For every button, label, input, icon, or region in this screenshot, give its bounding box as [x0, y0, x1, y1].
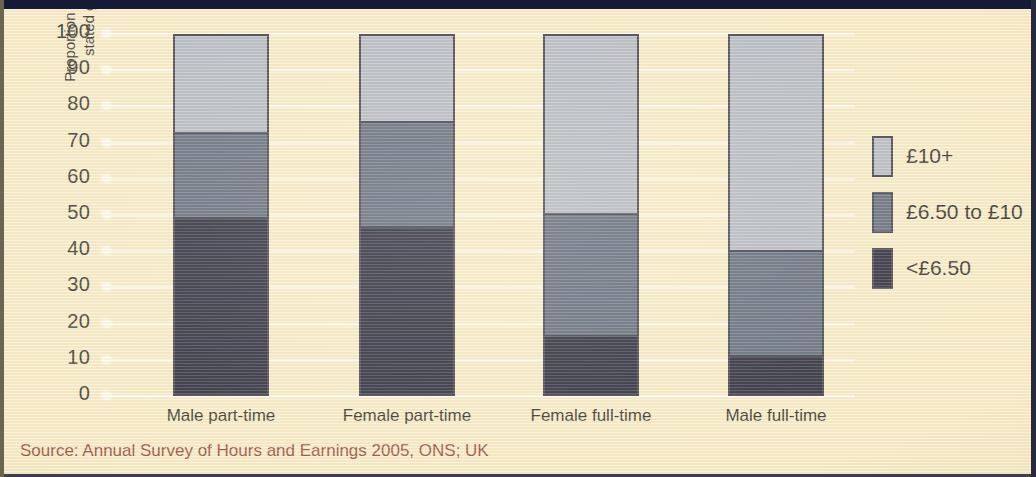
y-axis-tick-mark [102, 30, 111, 37]
bar-segment [545, 213, 637, 334]
bar-segment [175, 217, 267, 396]
y-axis-tick-mark [102, 247, 111, 254]
legend-label: <£6.50 [906, 256, 971, 280]
legend-swatch [872, 192, 893, 233]
bar-segment [730, 250, 822, 355]
x-axis-category-label: Male full-time [686, 406, 866, 426]
chart-figure: Proportion of employees in the stated gr… [0, 0, 1036, 477]
y-axis-tick-mark [102, 139, 111, 146]
legend-item: <£6.50 [872, 240, 1023, 296]
scan-edge-top [0, 0, 1036, 9]
bar-male-part-time [173, 34, 269, 396]
y-axis-tick-label: 0 [30, 382, 90, 405]
y-axis-tick-mark [102, 356, 111, 363]
bar-segment [730, 355, 822, 396]
y-axis-tick-mark [102, 102, 111, 109]
y-axis-tick-label: 10 [30, 346, 90, 369]
scan-edge-right [1031, 0, 1036, 477]
source-note: Source: Annual Survey of Hours and Earni… [20, 441, 489, 461]
legend-item: £6.50 to £10 [872, 184, 1023, 240]
legend-item: £10+ [872, 128, 1023, 184]
legend-label: £10+ [906, 144, 953, 168]
y-axis-tick-mark [102, 320, 111, 327]
bar-female-full-time [543, 34, 639, 396]
bar-segment [545, 335, 637, 396]
chart-legend: £10+£6.50 to £10<£6.50 [872, 128, 1023, 296]
bar-segment [175, 132, 267, 217]
x-axis-category-label: Female full-time [501, 406, 681, 426]
legend-swatch [872, 248, 893, 289]
legend-swatch [872, 136, 893, 177]
bar-segment [545, 36, 637, 213]
scan-edge-left [0, 0, 4, 477]
x-axis-category-label: Male part-time [131, 406, 311, 426]
y-axis-label-container: Proportion of employees in the stated gr… [14, 100, 60, 340]
x-axis-category-label: Female part-time [317, 406, 497, 426]
legend-label: £6.50 to £10 [906, 200, 1023, 224]
bar-female-part-time [359, 34, 455, 396]
bar-segment [361, 121, 453, 226]
bar-segment [175, 36, 267, 132]
y-axis-tick-mark [102, 175, 111, 182]
bar-segment [730, 36, 822, 250]
plot-area: 1009080706050403020100Male part-timeFema… [110, 34, 855, 396]
bar-segment [361, 36, 453, 121]
y-axis-tick-mark [102, 66, 111, 73]
bar-male-full-time [728, 34, 824, 396]
y-axis-tick-mark [102, 211, 111, 218]
y-axis-tick-mark [102, 283, 111, 290]
y-axis-label: Proportion of employees in the stated gr… [60, 0, 98, 100]
bar-segment [361, 226, 453, 396]
y-axis-tick-mark [102, 392, 111, 399]
